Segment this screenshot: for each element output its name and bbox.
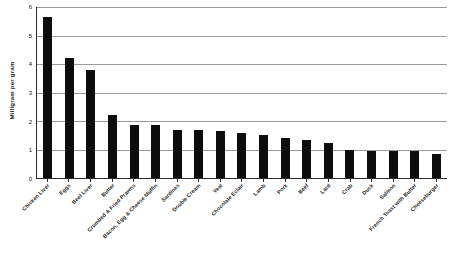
bar-chart: Milligram per gram 0123456 Chicken Liver… (0, 0, 458, 270)
x-axis-tick-mark (177, 179, 178, 182)
x-axis-label-slot: Double Cream (187, 183, 209, 269)
bar-slot (145, 7, 167, 178)
bar-slot (382, 7, 404, 178)
x-axis-category-label: Beef (298, 183, 310, 195)
bar (324, 143, 333, 178)
x-axis-tick-mark (414, 179, 415, 182)
y-axis-tick-label: 3 (29, 90, 32, 96)
bar (302, 140, 311, 178)
bar (108, 115, 117, 178)
x-axis-tick-mark (393, 179, 394, 182)
x-axis-tick-mark (220, 179, 221, 182)
x-axis-tick-mark (112, 179, 113, 182)
bar-slot (274, 7, 296, 178)
x-axis-category-label: Duck (362, 183, 375, 196)
bar-slot (231, 7, 253, 178)
x-axis-category-label: Butter (100, 183, 115, 198)
bar-slot (339, 7, 361, 178)
bar-slot (318, 7, 340, 178)
x-axis-tick-mark (155, 179, 156, 182)
x-axis-label-slot: Chicken Liver (36, 183, 58, 269)
x-axis-tick-mark (371, 179, 372, 182)
x-axis-label-slot: Cheeseburger (425, 183, 447, 269)
x-axis-label-slot: Lard (317, 183, 339, 269)
bar (281, 138, 290, 178)
bar-slot (210, 7, 232, 178)
x-axis-category-labels: Chicken LiverEggsBeef LiverButterCrumbed… (36, 183, 447, 269)
bar-slot (123, 7, 145, 178)
bar-slot (253, 7, 275, 178)
x-axis-label-slot: Lamb (252, 183, 274, 269)
bar (65, 58, 74, 178)
bar (151, 125, 160, 178)
bar-slot (296, 7, 318, 178)
x-axis-category-label: Chicken Liver (21, 183, 50, 212)
bar (86, 70, 95, 178)
y-axis-tick-label: 2 (29, 119, 32, 125)
bar (432, 154, 441, 178)
x-axis-tick-mark (198, 179, 199, 182)
x-axis-label-slot: Pork (274, 183, 296, 269)
bar-slot (102, 7, 124, 178)
bar (173, 130, 182, 178)
bar-slot (188, 7, 210, 178)
bar (237, 133, 246, 178)
bar (194, 130, 203, 178)
x-axis-label-slot: Chocolate Eclair (231, 183, 253, 269)
x-axis-tick-mark (47, 179, 48, 182)
bar-slot (80, 7, 102, 178)
y-axis-tick-label: 5 (29, 33, 32, 39)
x-axis-tick-mark (328, 179, 329, 182)
x-axis-tick-mark (68, 179, 69, 182)
x-axis-tick-mark (285, 179, 286, 182)
bar-slot (425, 7, 447, 178)
y-axis-title-text: Milligram per gram (8, 61, 15, 119)
y-axis-tick-label: 4 (29, 61, 32, 67)
x-axis-label-slot: Crab (339, 183, 361, 269)
bar-slot (361, 7, 383, 178)
bar (259, 135, 268, 178)
plot-area (36, 7, 447, 179)
bar (389, 151, 398, 178)
x-axis-tick-mark (263, 179, 264, 182)
x-axis-category-label: Lamb (253, 183, 267, 197)
bar-series (37, 7, 447, 178)
bar (216, 131, 225, 178)
bar-slot (166, 7, 188, 178)
x-axis-tick-mark (241, 179, 242, 182)
x-axis-category-label: Veal (212, 183, 224, 195)
bar (345, 150, 354, 179)
bar (130, 125, 139, 178)
x-axis-label-slot: Beef (296, 183, 318, 269)
y-axis-tick-label: 6 (29, 4, 32, 10)
bar (410, 151, 419, 178)
x-axis-category-label: Crab (341, 183, 354, 196)
y-axis-tick-label: 0 (29, 176, 32, 182)
bar (367, 151, 376, 178)
y-axis-tick-labels: 0123456 (22, 7, 34, 179)
x-axis-tick-mark (436, 179, 437, 182)
y-axis-title: Milligram per gram (0, 0, 22, 180)
x-axis-tick-mark (306, 179, 307, 182)
x-axis-tick-mark (350, 179, 351, 182)
x-axis-category-label: Salmon (379, 183, 397, 201)
y-axis-tick-label: 1 (29, 147, 32, 153)
x-axis-category-label: Lard (320, 183, 332, 195)
bar-slot (37, 7, 59, 178)
x-axis-tick-mark (133, 179, 134, 182)
x-axis-category-label: Pork (276, 183, 288, 195)
bar-slot (59, 7, 81, 178)
bar-slot (404, 7, 426, 178)
x-axis-category-label: Eggs (59, 183, 72, 196)
bar (43, 17, 52, 178)
x-axis-tick-mark (90, 179, 91, 182)
